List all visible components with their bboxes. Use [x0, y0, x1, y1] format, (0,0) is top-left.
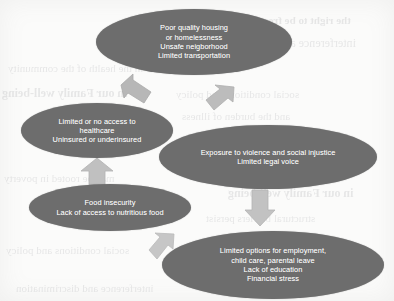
food-insecurity-node-text: Food insecurity Lack of access to nutrit…	[50, 198, 169, 217]
node-line: Limited legal voice	[201, 157, 336, 166]
healthcare-node-text: Limited or no access to healthcare Unins…	[47, 117, 148, 145]
violence-node-text: Exposure to violence and social injustic…	[195, 148, 342, 167]
node-line: Limited options for employment,	[220, 246, 326, 255]
node-line: Lack of education	[220, 265, 326, 274]
housing-node-text: Poor quality housing or homelessness Uns…	[152, 23, 236, 60]
violence-node[interactable]: Exposure to violence and social injustic…	[159, 125, 377, 189]
healthcare-node[interactable]: Limited or no access to healthcare Unins…	[21, 103, 173, 158]
node-line: Exposure to violence and social injustic…	[201, 148, 336, 157]
node-line: Poor quality housing	[158, 23, 230, 32]
concept-map-diagram: the right to be free from interference a…	[0, 0, 394, 301]
node-line: Food insecurity	[56, 198, 163, 207]
node-line: Unsafe neigborhood	[158, 42, 230, 51]
node-line: child care, parental leave	[220, 256, 326, 265]
arrow-up-right-icon	[201, 77, 239, 115]
bleed-text-line: social conditions and policy	[6, 244, 129, 256]
node-line: Financial stress	[220, 274, 326, 283]
bleed-text-line: in our Family well-being	[2, 86, 127, 101]
bleed-text-line: interference and discrimination	[16, 282, 153, 294]
node-line: or homelessness	[158, 33, 230, 42]
node-line: healthcare	[53, 126, 142, 135]
employment-node-text: Limited options for employment, child ca…	[214, 246, 332, 283]
node-line: Limited transportation	[158, 51, 230, 60]
node-line: Uninsured or underinsured	[53, 135, 142, 144]
housing-node[interactable]: Poor quality housing or homelessness Uns…	[96, 9, 292, 75]
node-line: Lack of access to nutritious food	[56, 208, 163, 217]
employment-node[interactable]: Limited options for employment, child ca…	[162, 231, 384, 299]
arrow-down-icon	[243, 188, 277, 228]
node-line: Limited or no access to	[53, 117, 142, 126]
arrow-up-left-icon	[118, 72, 156, 108]
food-insecurity-node[interactable]: Food insecurity Lack of access to nutrit…	[29, 184, 191, 231]
